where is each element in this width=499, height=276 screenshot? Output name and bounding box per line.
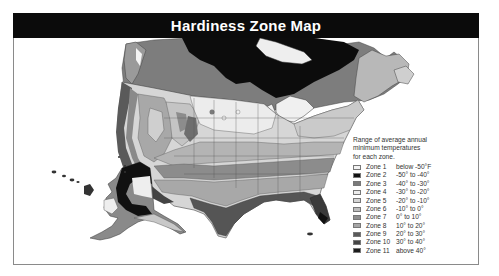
zone-range: -50° to -40° — [396, 171, 430, 179]
zone-label: Zone 2 — [366, 171, 396, 179]
title-bar: Hardiness Zone Map — [13, 13, 479, 38]
legend-item-zone-5: Zone 5-20° to -10° — [353, 196, 475, 204]
zone-5-swatch — [353, 198, 361, 203]
zone-range: 10° to 20° — [396, 222, 425, 230]
legend-item-zone-9: Zone 9 20° to 30° — [353, 230, 475, 238]
zone-label: Zone 6 — [366, 205, 396, 213]
zone-label: Zone 10 — [366, 238, 396, 246]
zone-6-swatch — [353, 207, 361, 212]
legend-item-zone-1: Zone 1below -50°F — [353, 163, 475, 171]
zone-range: -10° to 0° — [396, 205, 424, 213]
zone-range: 30° to 40° — [396, 238, 425, 246]
legend-item-zone-7: Zone 7 0° to 10° — [353, 213, 475, 221]
zone-range: above 40° — [396, 247, 426, 255]
zone-label: Zone 7 — [366, 213, 396, 221]
zone-8-swatch — [353, 223, 361, 228]
zone-label: Zone 9 — [366, 230, 396, 238]
caption-line: for each zone. — [353, 153, 475, 161]
map-title: Hardiness Zone Map — [171, 17, 321, 34]
legend-item-zone-11: Zone 11above 40° — [353, 247, 475, 255]
legend-item-zone-8: Zone 8 10° to 20° — [353, 222, 475, 230]
zone-3-swatch — [353, 181, 361, 186]
zone-9-swatch — [353, 232, 361, 237]
zone-range: 20° to 30° — [396, 230, 425, 238]
zone-label: Zone 5 — [366, 197, 396, 205]
legend-item-zone-6: Zone 6-10° to 0° — [353, 205, 475, 213]
zone-range: -20° to -10° — [396, 197, 430, 205]
zone-label: Zone 11 — [366, 247, 396, 255]
legend-item-zone-10: Zone 1030° to 40° — [353, 238, 475, 246]
zone-label: Zone 8 — [366, 222, 396, 230]
zone-range: -30° to -20° — [396, 188, 430, 196]
zone-legend: Range of average annual minimum temperat… — [353, 136, 475, 255]
caption-line: Range of average annual — [353, 136, 475, 144]
zone-label: Zone 4 — [366, 188, 396, 196]
zone-2-swatch — [353, 173, 361, 178]
legend-item-zone-3: Zone 3-40° to -30° — [353, 180, 475, 188]
zone-range: below -50°F — [396, 163, 431, 171]
zone-10-swatch — [353, 240, 361, 245]
zone-1-swatch — [353, 165, 361, 170]
legend-item-zone-2: Zone 2-50° to -40° — [353, 171, 475, 179]
zone-range: 0° to 10° — [396, 213, 421, 221]
zone-11-swatch — [353, 248, 361, 253]
legend-caption: Range of average annual minimum temperat… — [353, 136, 475, 161]
caption-line: minimum temperatures — [353, 144, 475, 152]
legend-item-zone-4: Zone 4-30° to -20° — [353, 188, 475, 196]
zone-7-swatch — [353, 215, 361, 220]
zone-4-swatch — [353, 190, 361, 195]
zone-label: Zone 1 — [366, 163, 396, 171]
zone-range: -40° to -30° — [396, 180, 430, 188]
zone-label: Zone 3 — [366, 180, 396, 188]
